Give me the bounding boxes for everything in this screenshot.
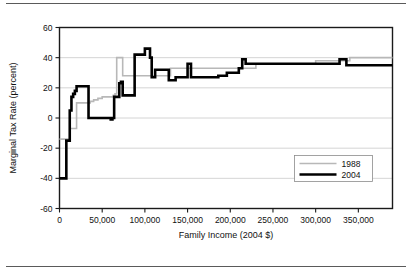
x-tick-label-0: 0 [57, 215, 62, 225]
y-tick-label--40: -40 [40, 173, 53, 183]
y-tick-label--20: -20 [40, 143, 53, 153]
y-axis-tick-labels: -60-40-200204060 [40, 23, 53, 214]
figure-container: -60-40-200204060 050,000100,000150,00020… [0, 0, 412, 273]
y-tick-label-20: 20 [43, 83, 53, 93]
y-axis-title: Marginal Tax Rate (percent) [8, 63, 18, 174]
legend: 19882004 [295, 156, 373, 182]
x-tick-label-200000: 200,000 [215, 215, 246, 225]
series-line-1988 [60, 58, 393, 139]
legend-label-2004: 2004 [342, 170, 361, 180]
marginal-tax-rate-chart: -60-40-200204060 050,000100,000150,00020… [0, 0, 412, 273]
x-tick-label-350000: 350,000 [343, 215, 374, 225]
x-tick-label-100000: 100,000 [130, 215, 161, 225]
x-tick-label-250000: 250,000 [258, 215, 289, 225]
x-tick-label-150000: 150,000 [172, 215, 203, 225]
y-tick-label--60: -60 [40, 204, 53, 214]
y-tick-label-60: 60 [43, 23, 53, 33]
legend-box-border [295, 156, 373, 182]
legend-label-1988: 1988 [342, 159, 361, 169]
y-tick-label-40: 40 [43, 53, 53, 63]
x-tick-label-300000: 300,000 [300, 215, 331, 225]
y-tick-label-0: 0 [48, 113, 53, 123]
x-tick-label-50000: 50,000 [89, 215, 115, 225]
tick-marks [56, 28, 359, 213]
x-axis-title: Family Income (2004 $) [179, 230, 274, 240]
x-axis-tick-labels: 050,000100,000150,000200,000250,000300,0… [57, 215, 374, 225]
